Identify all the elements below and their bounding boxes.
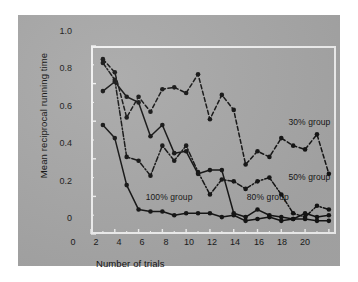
- data-point: [255, 149, 260, 154]
- data-point: [160, 209, 165, 214]
- x-tick-label-14: 14: [227, 237, 243, 247]
- data-point: [160, 123, 165, 128]
- data-point: [160, 87, 165, 92]
- plot-area: 30% group 50% group 80% group 100% group: [91, 46, 336, 234]
- data-point: [112, 136, 117, 141]
- data-point: [172, 213, 177, 218]
- data-point: [255, 207, 260, 212]
- x-tick-label-0: 0: [65, 237, 81, 247]
- data-point: [112, 70, 117, 75]
- data-point: [303, 147, 308, 152]
- data-point: [279, 136, 284, 141]
- data-point: [327, 207, 332, 212]
- data-point: [255, 179, 260, 184]
- data-point: [184, 211, 189, 216]
- annotation-80-group: 80% group: [247, 192, 289, 202]
- y-tick-label-0.2: 0.2: [48, 176, 72, 186]
- data-point: [231, 213, 236, 218]
- series-line-50-group: [103, 63, 329, 217]
- x-axis-title: Number of trials: [96, 258, 165, 269]
- data-point: [172, 151, 177, 156]
- data-point: [184, 143, 189, 148]
- data-point: [148, 173, 153, 178]
- data-point: [303, 217, 308, 222]
- y-tick-label-0: 0: [48, 213, 72, 223]
- data-point: [303, 211, 308, 216]
- x-tick-label-20: 20: [297, 237, 313, 247]
- data-point: [136, 94, 141, 99]
- data-point: [124, 94, 129, 99]
- x-tick-label-10: 10: [181, 237, 197, 247]
- data-point: [327, 213, 332, 218]
- y-tick-label-0.4: 0.4: [48, 138, 72, 148]
- data-point: [220, 168, 225, 173]
- annotation-50-group: 50% group: [288, 172, 330, 182]
- data-point: [220, 215, 225, 220]
- y-tick-label-0.6: 0.6: [48, 101, 72, 111]
- figure-plate: 1.0 0.8 0.6 0.4 0.2 0 0 2 4 6 8 10 12 14…: [0, 0, 358, 282]
- x-tick-label-6: 6: [134, 237, 150, 247]
- data-point: [124, 155, 129, 160]
- chart-plate: 1.0 0.8 0.6 0.4 0.2 0 0 2 4 6 8 10 12 14…: [18, 15, 340, 266]
- data-point: [279, 219, 284, 224]
- axis-ticks: [91, 46, 329, 234]
- data-point: [267, 155, 272, 160]
- data-point: [101, 123, 106, 128]
- x-tick-label-12: 12: [204, 237, 220, 247]
- data-point: [136, 100, 141, 105]
- data-point: [208, 117, 213, 122]
- data-point: [220, 93, 225, 98]
- data-point: [196, 72, 201, 77]
- data-point: [172, 85, 177, 90]
- annotation-100-group: 100% group: [146, 192, 193, 202]
- data-point: [196, 211, 201, 216]
- data-point: [148, 134, 153, 139]
- y-tick-label-0.8: 0.8: [48, 63, 72, 73]
- data-point: [243, 187, 248, 192]
- data-point: [231, 179, 236, 184]
- data-point: [291, 217, 296, 222]
- annotation-30-group: 30% group: [288, 117, 330, 127]
- x-tick-label-18: 18: [274, 237, 290, 247]
- data-point: [124, 183, 129, 188]
- data-point: [208, 168, 213, 173]
- series-layer: [91, 46, 336, 234]
- data-point: [136, 207, 141, 212]
- data-point: [160, 143, 165, 148]
- x-tick-label-4: 4: [111, 237, 127, 247]
- data-point: [291, 143, 296, 148]
- y-axis-title: Mean reciprocal running time: [38, 31, 49, 201]
- data-point: [101, 89, 106, 94]
- x-tick-label-16: 16: [251, 237, 267, 247]
- data-point: [291, 211, 296, 216]
- data-point: [255, 217, 260, 222]
- data-point: [243, 162, 248, 167]
- data-point: [208, 211, 213, 216]
- data-point: [184, 91, 189, 96]
- data-point: [315, 219, 320, 224]
- data-point: [112, 79, 117, 84]
- data-point: [243, 219, 248, 224]
- data-point: [231, 108, 236, 113]
- data-point: [101, 61, 106, 66]
- data-point: [267, 175, 272, 180]
- data-point: [315, 132, 320, 137]
- x-tick-label-2: 2: [88, 237, 104, 247]
- data-point: [184, 149, 189, 154]
- data-point: [196, 172, 201, 177]
- data-point: [148, 209, 153, 214]
- y-tick-label-1.0: 1.0: [48, 26, 72, 36]
- x-tick-label-8: 8: [158, 237, 174, 247]
- data-point: [136, 158, 141, 163]
- data-point: [267, 215, 272, 220]
- data-point: [172, 158, 177, 163]
- data-point: [148, 110, 153, 115]
- data-point: [208, 192, 213, 197]
- data-point: [124, 115, 129, 120]
- data-series-group: [101, 57, 332, 223]
- data-point: [327, 219, 332, 224]
- data-point: [315, 204, 320, 209]
